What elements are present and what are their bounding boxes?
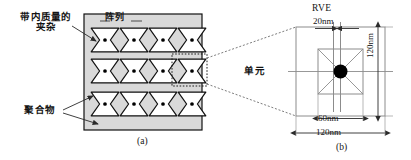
dimension-120nm-horizontal: 120nm [316,128,341,137]
dimension-120nm-vertical: 120nm [366,33,375,58]
rve-mass-dot [334,65,348,79]
figure-microstructure-schematic: 带内质量的 夹杂 阵列 聚合物 (a) RVE 20nm 单元 60nm 120… [0,0,411,160]
connector-lower [207,84,296,116]
dimension-20nm: 20nm [313,17,334,26]
label-inclusion-line2: 夹杂 [36,21,57,32]
label-polymer: 聚合物 [24,105,56,115]
label-inclusion: 带内质量的 夹杂 [6,12,86,32]
panel-b-group [288,22,393,136]
caption-panel-a: (a) [137,137,148,147]
label-array: 阵列 [105,13,124,22]
dimension-60nm: 60nm [318,114,339,123]
caption-panel-b: (b) [336,143,347,153]
label-rve: RVE [312,4,331,14]
connector-upper [207,27,296,58]
label-unit-cell: 单元 [244,66,265,76]
